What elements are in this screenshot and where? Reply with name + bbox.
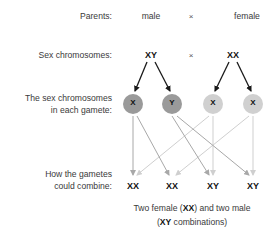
caption-bold-xx: XX [183, 203, 194, 213]
gamete-label-x: X [130, 98, 135, 107]
arrow-male-x-to-xx2 [137, 116, 169, 175]
combination-2: XX [166, 181, 178, 191]
result-caption: Two female (XX) and two male (XY combina… [112, 201, 272, 229]
gamete-label-x: X [250, 98, 255, 107]
combination-3: XY [207, 181, 219, 191]
arrow-female-x1-to-xx1 [137, 116, 209, 175]
caption-text-1: Two female ( [133, 203, 182, 213]
gamete-label-y: Y [169, 98, 174, 107]
arrow-xy-to-x [135, 62, 147, 91]
arrow-male-y-to-xy1 [172, 116, 209, 175]
arrow-xx-to-x1 [215, 62, 229, 91]
arrow-xx-to-x2 [237, 62, 251, 91]
arrow-xy-to-y [155, 62, 170, 91]
combination-4: XY [247, 181, 259, 191]
caption-bold-xy: XY [160, 217, 171, 227]
combination-1: XX [127, 181, 139, 191]
caption-text-2: ) and two male [194, 203, 250, 213]
gamete-label-x: X [210, 98, 215, 107]
caption-text-4: combinations) [171, 217, 227, 227]
diagram-arrows [0, 0, 277, 234]
